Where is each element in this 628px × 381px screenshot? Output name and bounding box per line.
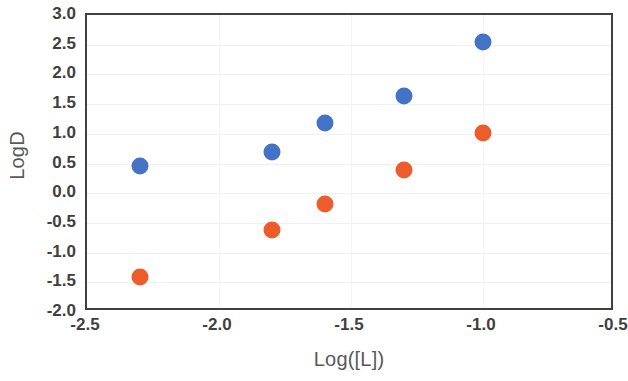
data-point-series-blue — [316, 115, 333, 132]
y-tick-label: 0.5 — [52, 153, 76, 170]
vertical-gridline — [351, 15, 352, 308]
y-tick-label: 0.0 — [52, 183, 76, 200]
data-point-series-orange — [131, 268, 148, 285]
x-axis-tick-labels: -2.5-2.0-1.5-1.0-0.5 — [85, 316, 613, 342]
y-tick-label: 1.0 — [52, 123, 76, 140]
y-axis-tick-labels: 3.02.52.01.51.00.50.0-0.5-1.0-1.5-2.0 — [34, 13, 80, 310]
plot-area — [85, 13, 613, 310]
data-point-series-blue — [131, 157, 148, 174]
x-tick-label: -1.5 — [334, 316, 363, 333]
y-tick-label: 3.0 — [52, 5, 76, 22]
data-point-series-blue — [263, 144, 280, 161]
horizontal-gridline — [87, 45, 611, 46]
data-point-series-orange — [395, 162, 412, 179]
data-point-series-orange — [316, 195, 333, 212]
horizontal-gridline — [87, 223, 611, 224]
data-point-series-orange — [475, 125, 492, 142]
horizontal-gridline — [87, 193, 611, 194]
horizontal-gridline — [87, 134, 611, 135]
horizontal-gridline — [87, 164, 611, 165]
y-tick-label: -0.5 — [47, 212, 76, 229]
y-tick-label: 1.5 — [52, 94, 76, 111]
data-point-series-blue — [475, 33, 492, 50]
y-tick-label: -1.5 — [47, 272, 76, 289]
y-tick-label: -1.0 — [47, 242, 76, 259]
x-axis-title: Log([L]) — [85, 348, 613, 371]
x-tick-label: -1.0 — [466, 316, 495, 333]
vertical-gridline — [483, 15, 484, 308]
y-tick-label: 2.5 — [52, 34, 76, 51]
data-point-series-orange — [263, 222, 280, 239]
x-tick-label: -0.5 — [598, 316, 627, 333]
horizontal-gridline — [87, 104, 611, 105]
horizontal-gridline — [87, 74, 611, 75]
horizontal-gridline — [87, 282, 611, 283]
y-axis-title: LogD — [0, 0, 34, 310]
x-tick-label: -2.5 — [70, 316, 99, 333]
y-tick-label: 2.0 — [52, 64, 76, 81]
y-axis-title-label: LogD — [6, 131, 29, 180]
x-tick-label: -2.0 — [202, 316, 231, 333]
vertical-gridline — [219, 15, 220, 308]
horizontal-gridline — [87, 253, 611, 254]
data-point-series-blue — [395, 88, 412, 105]
